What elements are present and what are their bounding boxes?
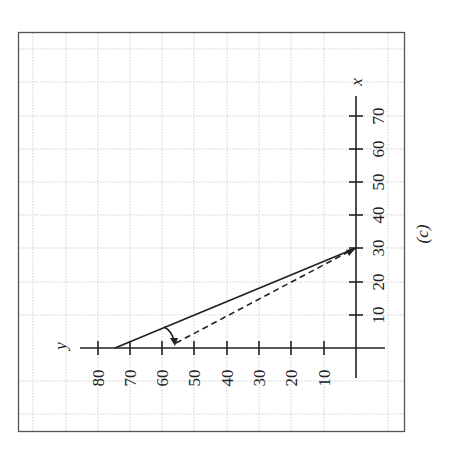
grid (19, 33, 404, 431)
y-tick-label: 30 (250, 370, 269, 387)
x-tick-label: 60 (369, 141, 388, 158)
y-axis-label: y (51, 342, 70, 352)
y-tick-label: 60 (153, 370, 172, 387)
y-tick-label: 20 (282, 370, 301, 387)
y-tick-label: 50 (185, 370, 204, 387)
x-tick-label: 40 (369, 207, 388, 224)
solid-line (115, 248, 356, 348)
y-tick-label: 70 (121, 370, 140, 387)
y-tick-labels: 10 20 30 40 50 60 70 80 (89, 370, 334, 387)
x-tick-labels: 10 20 30 40 50 60 70 (369, 108, 388, 324)
y-tick-label: 40 (218, 370, 237, 387)
x-axis-label: x (347, 78, 366, 87)
x-tick-label: 70 (369, 108, 388, 125)
figure-frame (19, 33, 405, 432)
x-axis (349, 96, 363, 378)
rotated-diagram-figure: 10 20 30 40 50 60 70 10 20 30 40 50 60 7… (0, 0, 462, 457)
x-tick-label: 10 (369, 307, 388, 324)
dashed-line-arrowhead (346, 248, 356, 256)
x-tick-label: 20 (369, 274, 388, 291)
panel-label: (c) (413, 224, 432, 243)
x-tick-label: 30 (369, 240, 388, 257)
y-tick-label: 10 (315, 370, 334, 387)
y-tick-label: 80 (89, 370, 108, 387)
x-tick-label: 50 (369, 174, 388, 191)
